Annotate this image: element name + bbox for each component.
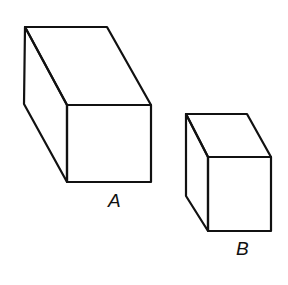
box-b: B [186, 114, 271, 259]
box-b-side-face [186, 114, 208, 231]
box-b-top-face [186, 114, 271, 157]
box-a-label: A [107, 190, 121, 211]
box-a-front-face [67, 105, 151, 182]
box-b-label: B [236, 238, 249, 259]
box-a-side-face [24, 27, 67, 182]
box-b-front-face [208, 157, 271, 231]
box-a: A [24, 27, 151, 211]
box-a-top-face [25, 27, 151, 105]
boxes-diagram: A B [0, 0, 288, 285]
